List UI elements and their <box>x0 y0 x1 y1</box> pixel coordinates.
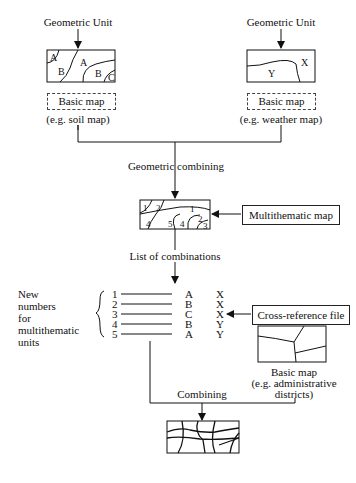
right-basic-map-caption: (e.g. weather map) <box>240 113 322 125</box>
multi-map-label: 1 <box>190 203 195 215</box>
left-map-label: A <box>80 57 87 69</box>
admin-basic-map-caption: districts) <box>275 388 314 400</box>
left-map-label: A <box>50 52 57 64</box>
left-map-label: B <box>58 66 65 78</box>
diagram-lines <box>0 0 356 483</box>
left-basic-map-label: Basic map <box>58 95 104 107</box>
combo-b: Y <box>216 328 224 340</box>
multi-map-label: 5 <box>168 218 173 230</box>
multi-map-label: 2 <box>198 213 203 225</box>
geometric-combining-label: Geometric combining <box>128 160 224 172</box>
combining-label: Combining <box>177 388 227 400</box>
new-numbers-line: numbers <box>18 300 56 312</box>
new-numbers-line: units <box>18 336 39 348</box>
right-geometric-unit-label: Geometric Unit <box>247 16 316 28</box>
multi-map-label: 4 <box>146 218 151 230</box>
combo-num: 5 <box>112 328 118 340</box>
multi-map-label: 3 <box>203 220 208 232</box>
multithematic-map-label: Multithematic map <box>249 209 333 221</box>
left-geometric-unit-label: Geometric Unit <box>44 16 113 28</box>
list-of-combinations-label: List of combinations <box>129 250 220 262</box>
right-map-label: X <box>301 57 308 69</box>
right-map-label: Y <box>268 68 275 80</box>
multi-map-label: 2 <box>156 202 161 214</box>
left-map-label: C <box>108 72 115 84</box>
new-numbers-line: multithematic <box>18 324 79 336</box>
multithematic-map-box: Multithematic map <box>242 205 340 225</box>
new-numbers-line: for <box>18 312 31 324</box>
combo-a: A <box>185 328 193 340</box>
left-basic-map-box: Basic map <box>47 93 116 110</box>
multi-map-label: 4 <box>180 218 185 230</box>
right-basic-map-box: Basic map <box>247 93 316 110</box>
cross-reference-box: Cross-reference file <box>252 305 350 325</box>
left-basic-map-caption: (e.g. soil map) <box>46 113 110 125</box>
left-map-label: B <box>95 68 102 80</box>
right-basic-map-label: Basic map <box>258 95 304 107</box>
new-numbers-line: New <box>18 288 39 300</box>
cross-reference-label: Cross-reference file <box>257 309 344 321</box>
multi-map-label: 1 <box>143 202 148 214</box>
